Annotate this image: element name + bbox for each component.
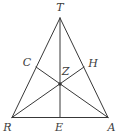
side-TR-line	[12, 18, 60, 118]
point-label-H: H	[87, 57, 98, 70]
median-AC-line	[36, 67, 108, 118]
point-label-A: A	[107, 121, 116, 134]
point-label-T: T	[56, 1, 65, 14]
geometry-figure: TRAECHZ	[0, 0, 121, 134]
point-label-C: C	[23, 56, 32, 69]
median-RH-line	[12, 67, 84, 118]
point-label-E: E	[54, 121, 63, 134]
triangle-medians-diagram: TRAECHZ	[0, 0, 121, 134]
point-label-R: R	[2, 121, 11, 134]
centroid-Z-dot	[58, 82, 62, 86]
point-label-Z: Z	[61, 65, 70, 78]
